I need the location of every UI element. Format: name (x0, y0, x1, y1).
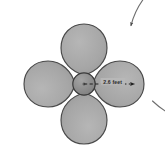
radius-label: 2.6 feet (103, 79, 122, 85)
fan-diagram-svg: 2.6 feet (0, 0, 165, 164)
fan-diagram-figure: 2.6 feet (0, 0, 165, 164)
